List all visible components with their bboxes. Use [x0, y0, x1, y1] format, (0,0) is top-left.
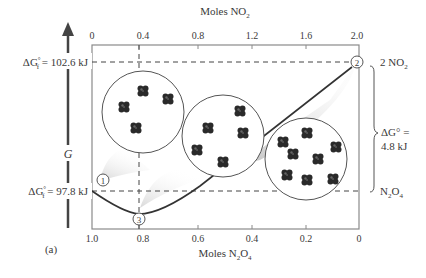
svg-text:0.4: 0.4 [137, 30, 150, 41]
svg-text:0.4: 0.4 [246, 233, 259, 244]
svg-text:1.2: 1.2 [246, 30, 259, 41]
top-axis-title: Moles NO2 [200, 5, 250, 20]
magnified-view-1 [102, 71, 184, 153]
delta-g-value: 4.8 kJ [381, 140, 408, 152]
point-1-label: 1 [101, 176, 106, 186]
reactant-label: N2O4 [380, 185, 403, 200]
svg-text:0.6: 0.6 [192, 233, 205, 244]
point-2-label: 2 [355, 58, 360, 68]
y-axis-label: G [64, 147, 73, 161]
svg-text:1.6: 1.6 [300, 30, 313, 41]
product-label: 2 NO2 [380, 56, 408, 71]
svg-text:0.8: 0.8 [137, 233, 150, 244]
bottom-axis-title: Moles N2O4 [198, 247, 252, 262]
svg-text:1.0: 1.0 [86, 233, 99, 244]
delta-g-brace [370, 66, 378, 192]
svg-text:0.2: 0.2 [300, 233, 313, 244]
magnified-view-3 [265, 118, 347, 200]
gibbs-energy-diagram: 1 2 3 G ΔG°f = 102.6 kJ ΔG°f = 97.8 kJ M… [0, 0, 426, 278]
delta-g-label: ΔG° = [381, 126, 409, 138]
svg-text:0.8: 0.8 [192, 30, 205, 41]
magnified-view-2 [182, 95, 264, 177]
svg-text:0: 0 [90, 30, 95, 41]
figure-label: (a) [45, 243, 58, 256]
top-axis-ticks: 0 0.4 0.8 1.2 1.6 2.0 [90, 30, 364, 41]
bottom-axis-ticks: 1.0 0.8 0.6 0.4 0.2 0 [86, 233, 362, 244]
arrow-up-icon [62, 22, 74, 36]
svg-text:2.0: 2.0 [351, 30, 364, 41]
svg-text:0: 0 [357, 233, 362, 244]
point-3-label: 3 [137, 215, 142, 225]
